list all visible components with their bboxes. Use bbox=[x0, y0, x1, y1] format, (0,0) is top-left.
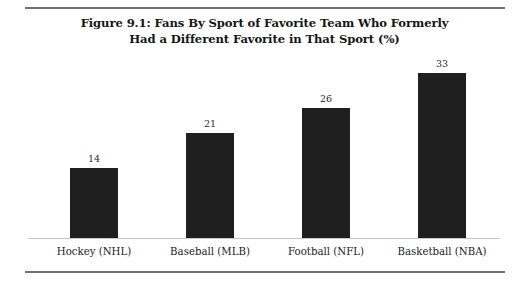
figure-bar-chart: Figure 9.1: Fans By Sport of Favorite Te… bbox=[0, 0, 529, 285]
bar-value-football: 26 bbox=[286, 93, 366, 104]
bar-value-hockey: 14 bbox=[54, 153, 134, 164]
bar-hockey[interactable] bbox=[70, 168, 118, 238]
x-axis-label-basketball: Basketball (NBA) bbox=[384, 246, 500, 257]
bar-group-football: 26 bbox=[302, 38, 350, 238]
plot-area: 14 21 26 33 Hockey (NHL) Baseball (MLB) … bbox=[0, 0, 529, 285]
x-axis-baseline bbox=[28, 238, 500, 239]
bar-group-baseball: 21 bbox=[186, 38, 234, 238]
bar-group-basketball: 33 bbox=[418, 38, 466, 238]
bar-value-baseball: 21 bbox=[170, 118, 250, 129]
bottom-divider-rule bbox=[25, 271, 505, 273]
bar-basketball[interactable] bbox=[418, 73, 466, 238]
bar-value-basketball: 33 bbox=[402, 58, 482, 69]
x-axis-label-football: Football (NFL) bbox=[268, 246, 384, 257]
bar-football[interactable] bbox=[302, 108, 350, 238]
bar-group-hockey: 14 bbox=[70, 38, 118, 238]
x-axis-label-baseball: Baseball (MLB) bbox=[152, 246, 268, 257]
bar-baseball[interactable] bbox=[186, 133, 234, 238]
x-axis-label-hockey: Hockey (NHL) bbox=[36, 246, 152, 257]
